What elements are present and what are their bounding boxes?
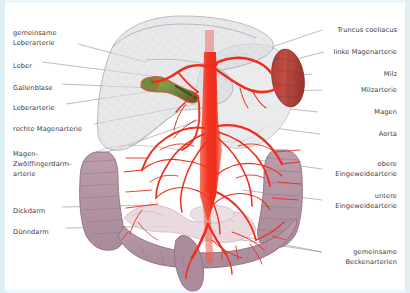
label-aorta: Aorta [379,129,397,139]
label-magen: Magen [374,107,397,117]
label-dickdarm: Dickdarm [13,206,45,216]
label-truncus-coeliacus: Truncus coeliacus [337,25,397,35]
label-leber: Leber [13,61,32,71]
label-obere-eingeweidearterie: obere Eingeweidearterie [335,159,397,179]
label-leberarterie: Leberarterie [13,103,55,113]
label-untere-eingeweidearterie: untere Eingeweidearterie [335,191,397,211]
label-rechte-magenarterie: rechte Magenarterie [13,124,82,134]
label-milzarterie: Milzarterie [361,85,397,95]
label-duenndarm: Dünndarm [13,227,49,237]
label-gemeinsame-leberarterie: gemeinsame Leberarterie [13,28,57,48]
label-milz: Milz [384,69,397,79]
anatomical-figure: gemeinsame Leberarterie Leber Gallenblas… [0,0,410,293]
label-gallenblase: Gallenblase [13,83,53,93]
organ-small-bowel [124,205,256,243]
label-gemeinsame-beckenarterien: gemeinsame Beckenarterien [345,247,397,267]
label-magen-zwoelffingerdarm-arterie: Magen- Zwölffingerdarm- arterie [13,149,72,180]
label-linke-magenarterie: linke Magenarterie [333,47,397,57]
